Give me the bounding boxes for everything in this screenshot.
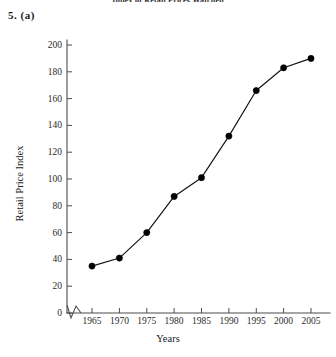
y-tick-label: 40	[36, 254, 62, 264]
x-axis-title: Years	[0, 333, 336, 344]
y-tick-label: 60	[36, 228, 62, 238]
x-tick-label: 1965	[77, 316, 107, 326]
y-tick-label: 120	[36, 147, 62, 157]
x-tick-label: 2000	[269, 316, 299, 326]
y-tick-label: 80	[36, 201, 62, 211]
x-tick-marks	[92, 308, 311, 313]
x-tick-label: 1990	[214, 316, 244, 326]
y-tick-label: 200	[36, 40, 62, 50]
y-tick-label: 140	[36, 120, 62, 130]
series-line	[92, 58, 311, 266]
x-tick-label: 1970	[104, 316, 134, 326]
line-chart: 0 20 40 60 80 100 120 140 160 180 200 19…	[0, 0, 336, 357]
x-tick-label: 1980	[159, 316, 189, 326]
data-point	[226, 133, 232, 139]
x-tick-label: 2005	[296, 316, 326, 326]
x-tick-label: 1975	[132, 316, 162, 326]
series-markers	[89, 55, 314, 269]
data-point	[171, 193, 177, 199]
data-point	[89, 263, 95, 269]
data-point	[253, 87, 259, 93]
y-tick-label: 20	[36, 281, 62, 291]
y-tick-marks	[67, 45, 72, 313]
x-tick-label: 1985	[187, 316, 217, 326]
y-tick-label: 160	[36, 94, 62, 104]
y-tick-label: 100	[36, 174, 62, 184]
data-point	[308, 55, 314, 61]
data-point	[198, 175, 204, 181]
y-tick-label: 180	[36, 67, 62, 77]
chart-page: Index of Retail Prices Watched 5. (a)	[0, 0, 336, 357]
data-point	[144, 230, 150, 236]
y-axis-title: Retail Price Index	[14, 114, 25, 254]
y-tick-label: 0	[36, 308, 62, 318]
data-point	[281, 65, 287, 71]
data-point	[116, 255, 122, 261]
x-tick-label: 1995	[241, 316, 271, 326]
